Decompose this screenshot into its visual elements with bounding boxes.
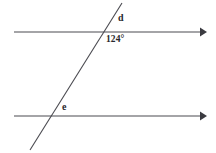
angle-label-e: e xyxy=(62,102,66,112)
angle-measure-label: 124° xyxy=(106,35,124,45)
geometry-diagram: d 124° e xyxy=(0,0,216,153)
angle-label-d: d xyxy=(118,13,124,23)
bottom-line-arrowhead-icon xyxy=(200,112,207,121)
geometry-canvas xyxy=(0,0,216,153)
transversal-line xyxy=(30,3,122,150)
top-line-arrowhead-icon xyxy=(200,28,207,37)
